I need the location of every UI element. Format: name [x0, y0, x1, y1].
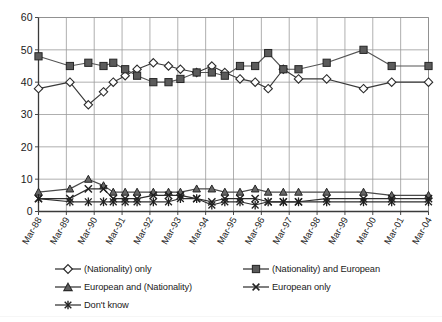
- filled-square-marker: [165, 79, 172, 86]
- x-axis-tick-labels: Mar-88Mar-89Mar-90Mar-91Mar-92Mar-93Mar-…: [19, 215, 433, 246]
- x-axis-tick-label: Mar-91: [103, 215, 127, 246]
- filled-square-marker: [280, 66, 287, 73]
- x-axis-tick-label: Mar-98: [298, 215, 322, 246]
- legend-row-1b: (Nationality) and European: [243, 262, 380, 276]
- y-axis-tick-label: 40: [21, 76, 33, 88]
- x-axis-tick-label: Mar-01: [381, 215, 405, 246]
- x-axis-tick-label: Mar-89: [47, 215, 71, 246]
- filled-square-marker: [100, 62, 107, 69]
- open-diamond-marker: [424, 78, 432, 86]
- legend-label-dont-know: Don't know: [84, 300, 129, 311]
- filled-square-marker: [150, 79, 157, 86]
- y-axis-tick-label: 10: [21, 173, 33, 185]
- legend-item-european-and-nationality[interactable]: European and (Nationality): [55, 281, 192, 293]
- filled-square-marker: [388, 62, 395, 69]
- open-diamond-marker: [387, 78, 395, 86]
- filled-square-marker: [236, 62, 243, 69]
- legend-row-2b: European only: [243, 280, 331, 294]
- filled-triangle-marker: [66, 185, 74, 192]
- legend-row-1: (Nationality) only: [55, 262, 151, 276]
- scan-artifact-line: [0, 316, 442, 317]
- x-axis-tick-label: Mar-04: [409, 215, 433, 246]
- filled-square-marker: [323, 59, 330, 66]
- legend-row-3: Don't know: [55, 298, 129, 312]
- filled-square-marker: [360, 46, 367, 53]
- filled-square-marker: [122, 66, 129, 73]
- x-axis-tick-label: Mar-88: [19, 215, 43, 246]
- filled-square-marker: [133, 72, 140, 79]
- filled-triangle-icon: [55, 281, 81, 293]
- y-axis-tick-label: 0: [27, 205, 33, 217]
- filled-square-marker: [221, 72, 228, 79]
- filled-square-marker: [193, 69, 200, 76]
- legend-row-2: European and (Nationality): [55, 280, 192, 294]
- x-axis-tick-label: Mar-93: [159, 215, 183, 246]
- open-diamond-marker: [251, 78, 259, 86]
- filled-square-marker: [265, 49, 272, 56]
- y-axis-tick-label: 30: [21, 108, 33, 120]
- y-axis-tick-label: 60: [21, 11, 33, 23]
- x-axis-tick-label: Mar-92: [131, 215, 155, 246]
- y-axis-tick-label: 20: [21, 141, 33, 153]
- filled-triangle-marker: [251, 185, 259, 192]
- filled-square-marker: [35, 53, 42, 60]
- legend-label-nationality-and-european: (Nationality) and European: [272, 264, 380, 275]
- x-axis-tick-label: Mar-95: [214, 215, 238, 246]
- open-diamond-marker: [164, 62, 172, 70]
- legend-label-european-and-nationality: European and (Nationality): [84, 282, 192, 293]
- filled-triangle-marker: [85, 175, 93, 182]
- x-axis-tick-label: Mar-99: [326, 215, 350, 246]
- filled-square-marker: [208, 69, 215, 76]
- legend-label-european-only: European only: [272, 282, 331, 293]
- open-diamond-marker: [359, 84, 367, 92]
- filled-square-marker: [252, 62, 259, 69]
- x-axis-tick-label: Mar-94: [186, 215, 210, 246]
- x-axis-tick-label: Mar-90: [75, 215, 99, 246]
- filled-square-icon: [243, 263, 269, 275]
- filled-square-marker: [295, 66, 302, 73]
- x-axis-tick-label: Mar-97: [270, 215, 294, 246]
- x-axis-tick-label: Mar-00: [354, 215, 378, 246]
- legend-item-european-only[interactable]: European only: [243, 281, 331, 293]
- x-axis-tick-label: Mar-96: [242, 215, 266, 246]
- chart-container: 0102030405060 Mar-88Mar-89Mar-90Mar-91Ma…: [0, 0, 442, 322]
- asterisk-icon: [55, 299, 81, 311]
- filled-square-marker: [66, 62, 73, 69]
- y-axis-tick-label: 50: [21, 44, 33, 56]
- legend-label-nationality-only: (Nationality) only: [84, 264, 151, 275]
- filled-square-marker: [110, 59, 117, 66]
- filled-square-marker: [425, 62, 432, 69]
- filled-square-marker: [177, 75, 184, 82]
- open-diamond-marker: [149, 59, 157, 67]
- chart-legend: (Nationality) only (Nationality) and Eur…: [0, 258, 442, 318]
- legend-item-nationality-only[interactable]: (Nationality) only: [55, 263, 151, 275]
- legend-item-dont-know[interactable]: Don't know: [55, 299, 129, 311]
- filled-square-marker: [85, 59, 92, 66]
- cross-x-icon: [243, 281, 269, 293]
- y-axis-tick-labels: 0102030405060: [21, 11, 33, 217]
- open-diamond-icon: [55, 263, 81, 275]
- legend-item-nationality-and-european[interactable]: (Nationality) and European: [243, 263, 380, 275]
- open-diamond-marker: [34, 84, 42, 92]
